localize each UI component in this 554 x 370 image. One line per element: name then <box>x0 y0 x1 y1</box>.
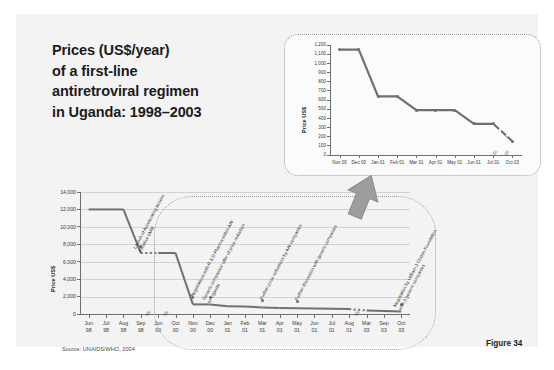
inset-chart-data-marker <box>415 109 418 112</box>
inset-chart-data-marker <box>473 122 476 125</box>
figure-label: Figure 34 <box>486 339 522 348</box>
slide-panel: Prices (US$/year) of a first-line antire… <box>16 14 538 347</box>
title-line-2: of a first-line <box>52 61 302 82</box>
title-line-4: in Uganda: 1998–2003 <box>52 102 302 123</box>
inset-chart-data-marker <box>434 109 437 112</box>
title-line-1: Prices (US$/year) <box>52 40 302 61</box>
source-caption: Source: UNAIDS/WHO, 2004 <box>62 346 135 352</box>
inset-chart-data-marker <box>511 140 514 143</box>
inset-chart-data-marker <box>396 95 399 98</box>
main-price-chart: Price US$ 02,0004,0006,0008,00010,00012,… <box>32 184 512 349</box>
title-line-3: antiretroviral regimen <box>52 81 302 102</box>
up-arrow-icon <box>346 172 380 220</box>
main-chart-series-line <box>32 184 512 349</box>
inset-price-chart: Price US$ 01002003004005006007008009001,… <box>284 34 541 176</box>
inset-chart-series-line <box>285 35 540 175</box>
inset-chart-data-marker <box>453 109 456 112</box>
slide-image: Prices (US$/year) of a first-line antire… <box>0 0 554 370</box>
inset-chart-data-marker <box>377 95 380 98</box>
page-title: Prices (US$/year) of a first-line antire… <box>52 40 302 122</box>
